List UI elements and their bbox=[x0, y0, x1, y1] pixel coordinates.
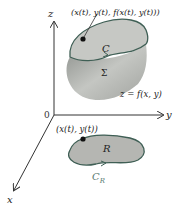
origin-label: 0 bbox=[44, 110, 50, 120]
y-axis-label: y bbox=[165, 109, 172, 120]
region-point-icon bbox=[80, 136, 85, 141]
surface-sigma-label: Σ bbox=[101, 68, 107, 78]
curve-cr-label: CR bbox=[92, 171, 106, 185]
region-r-label: R bbox=[102, 143, 111, 154]
curve-cr-subscript: R bbox=[99, 177, 106, 185]
surface-point-label: (x(t), y(t), f(x(t), y(t))) bbox=[71, 7, 160, 17]
x-axis bbox=[14, 115, 54, 190]
diagram-canvas: z y x 0 (x(t), y(t), f(x(t), y(t))) C Σ … bbox=[0, 0, 186, 208]
surface-equation: z = f(x, y) bbox=[119, 89, 162, 99]
region-point-label: (x(t), y(t)) bbox=[56, 124, 98, 134]
surface-point-icon bbox=[80, 36, 85, 41]
z-axis-label: z bbox=[47, 8, 54, 19]
stokes-diagram: z y x 0 (x(t), y(t), f(x(t), y(t))) C Σ … bbox=[0, 0, 186, 208]
x-axis-label: x bbox=[7, 194, 13, 205]
curve-c-label: C bbox=[102, 43, 110, 54]
